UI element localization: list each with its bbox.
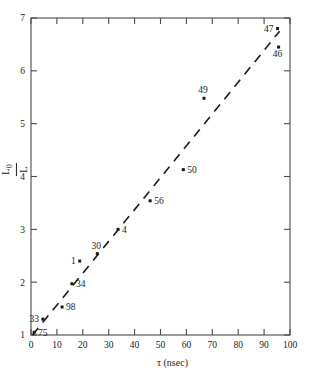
x-axis-label: τ (nsec) <box>0 357 321 368</box>
data-point-label: 50 <box>187 165 197 175</box>
x-tick-label: 40 <box>130 340 140 350</box>
y-tick-label: 6 <box>20 66 25 76</box>
data-point-marker[interactable] <box>276 27 279 30</box>
y-axis-label-denominator: L <box>17 166 29 175</box>
data-point-marker[interactable] <box>117 228 120 231</box>
y-tick-label: 2 <box>20 278 25 288</box>
x-tick-label: 50 <box>156 340 166 350</box>
x-tick-label: 100 <box>283 340 298 350</box>
data-point-label: 75 <box>38 328 48 338</box>
data-point-marker[interactable] <box>96 252 99 255</box>
data-point-marker[interactable] <box>78 260 81 263</box>
data-point-label: 4 <box>122 225 127 235</box>
x-tick-label: 0 <box>29 340 34 350</box>
x-tick-label: 20 <box>78 340 88 350</box>
y-axis-label: L0 L <box>2 140 26 200</box>
x-tick-label: 80 <box>233 340 243 350</box>
fit-line <box>33 31 280 335</box>
data-point-label: 56 <box>154 196 164 206</box>
x-axis-ticks <box>31 18 290 335</box>
data-point-marker[interactable] <box>61 305 64 308</box>
data-point-label: 33 <box>29 314 39 324</box>
data-point-marker[interactable] <box>182 168 185 171</box>
y-axis-label-fraction-bar <box>15 164 16 177</box>
fit-line-dashed <box>33 31 280 335</box>
y-tick-label: 7 <box>20 13 25 23</box>
y-tick-label: 3 <box>20 225 25 235</box>
data-point-marker[interactable] <box>149 199 152 202</box>
data-point-label: 1 <box>71 256 76 266</box>
x-tick-label: 10 <box>52 340 62 350</box>
x-tick-label: 90 <box>259 340 269 350</box>
x-axis-tick-labels: 0102030405060708090100 <box>29 340 298 350</box>
x-tick-label: 30 <box>104 340 114 350</box>
data-point-marker[interactable] <box>70 282 73 285</box>
figure-container: 0102030405060708090100 1234567 753398341… <box>0 0 321 377</box>
data-point-marker[interactable] <box>41 318 44 321</box>
y-tick-label: 5 <box>20 119 25 129</box>
scatter-plot: 0102030405060708090100 1234567 753398341… <box>0 0 321 377</box>
y-axis-ticks <box>31 18 290 335</box>
axes-frame <box>31 18 290 335</box>
data-point-label: 49 <box>198 85 208 95</box>
data-point-label: 47 <box>264 24 274 34</box>
data-point-labels: 7533983413045650494647 <box>29 24 282 338</box>
data-point-marker[interactable] <box>203 97 206 100</box>
y-tick-label: 1 <box>20 330 25 340</box>
data-point-label: 30 <box>92 241 102 251</box>
data-point-marker[interactable] <box>33 331 36 334</box>
y-axis-label-numerator: L0 <box>0 164 14 177</box>
data-point-label: 98 <box>66 302 76 312</box>
x-tick-label: 60 <box>182 340 192 350</box>
x-tick-label: 70 <box>208 340 218 350</box>
data-point-markers <box>33 27 280 334</box>
data-point-label: 34 <box>76 279 86 289</box>
plot-frame <box>31 18 290 335</box>
data-point-label: 46 <box>273 49 283 59</box>
